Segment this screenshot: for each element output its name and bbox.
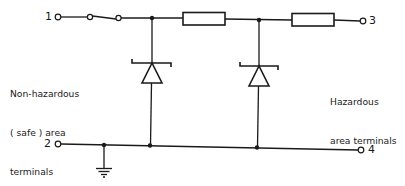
terminal-1-symbol (55, 14, 61, 20)
terminal-3-label: 3 (369, 15, 376, 26)
switch-symbol (87, 14, 121, 20)
safe-area-label-line-1: Non-hazardous (10, 87, 79, 100)
junction-zener-1 (148, 143, 152, 147)
hazardous-area-label-line-2: area terminals (330, 134, 397, 147)
ground-icon (96, 145, 112, 177)
resistor-2-symbol (292, 14, 334, 27)
zener-diode-1-symbol (132, 18, 171, 145)
junction-zener-2 (255, 145, 259, 149)
hazardous-area-label: Hazardous area terminals (330, 69, 397, 160)
safe-area-label-line-3: terminals (10, 165, 79, 178)
terminal-1-label: 1 (45, 11, 52, 22)
zener-diode-2-symbol (240, 20, 278, 147)
terminal-3-symbol (360, 18, 366, 24)
safe-area-label: Non-hazardous ( safe ) area terminals (10, 61, 79, 186)
resistor-1-symbol (183, 13, 225, 26)
hazardous-area-label-line-1: Hazardous (330, 95, 397, 108)
safe-area-label-line-2: ( safe ) area (10, 126, 79, 139)
